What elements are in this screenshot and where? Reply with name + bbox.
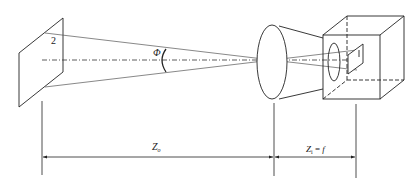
lower-ray xyxy=(45,60,272,87)
object-plane xyxy=(19,18,63,107)
camera-box xyxy=(323,16,404,99)
aperture xyxy=(328,43,340,81)
lens xyxy=(257,25,287,99)
pinhole-camera-diagram: 2 Φ Zo Zi = f xyxy=(0,0,419,190)
image-distance-label: Zi = f xyxy=(306,144,326,155)
angle-label: Φ xyxy=(153,47,161,58)
barrel-bottom xyxy=(279,89,323,99)
barrel-top xyxy=(279,26,323,38)
object-plane-number: 2 xyxy=(51,35,56,46)
object-distance-label: Zo xyxy=(152,141,161,153)
angle-arc xyxy=(162,49,166,72)
